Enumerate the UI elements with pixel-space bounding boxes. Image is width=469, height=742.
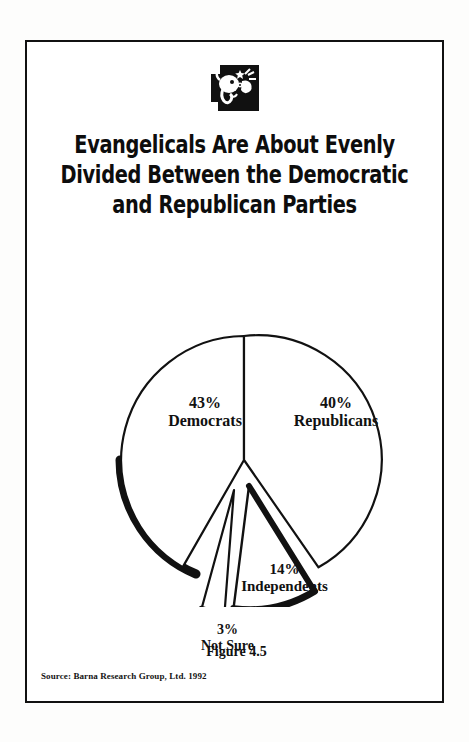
not-sure-percent: 3% [175,622,280,638]
independents-name: Independents [217,578,352,595]
figure-caption: Figure 4.5 [27,644,446,660]
title-line-3: and Republican Parties [56,190,413,220]
democrats-percent: 43% [145,394,265,412]
slice-label-republicans: 40% Republicans [270,394,402,430]
chart-title: Evangelicals Are About Evenly Divided Be… [56,130,413,220]
title-line-2: Divided Between the Democratic [56,160,413,190]
independents-percent: 14% [217,561,352,578]
source-note: Source: Barna Research Group, Ltd. 1992 [41,671,207,681]
republicans-percent: 40% [270,394,402,412]
republicans-name: Republicans [270,412,402,430]
figure-frame: Evangelicals Are About Evenly Divided Be… [25,40,444,703]
slice-label-independents: 14% Independents [217,561,352,595]
title-line-1: Evangelicals Are About Evenly [56,130,413,160]
democrats-name: Democrats [145,412,265,430]
elephant-donkey-logo [209,62,261,114]
slice-label-democrats: 43% Democrats [145,394,265,430]
